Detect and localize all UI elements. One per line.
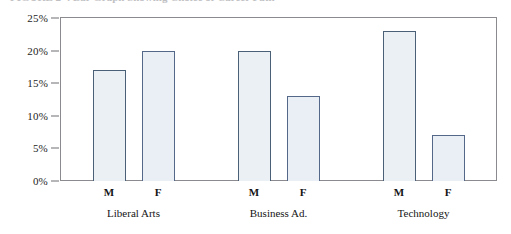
- figure-container: FIGURE 2-4 Bar Graph Showing Choice of C…: [0, 0, 511, 234]
- y-axis-tick-label: 25%: [27, 12, 48, 24]
- y-axis-tick-label: 5%: [33, 142, 48, 154]
- x-axis-gender-label: M: [394, 186, 404, 198]
- y-axis-tick-mark: [51, 181, 59, 182]
- figure-caption-text: FIGURE 2-4 Bar Graph Showing Choice of C…: [10, 0, 275, 3]
- y-axis-tick-mark: [51, 115, 59, 116]
- x-axis-group-label: Business Ad.: [250, 207, 307, 219]
- bars-layer: [61, 18, 496, 181]
- y-axis-tick-mark: [51, 50, 59, 51]
- x-axis-gender-label: M: [249, 186, 259, 198]
- bar: [93, 70, 126, 181]
- y-axis-tick-mark: [51, 83, 59, 84]
- x-axis-group-label: Liberal Arts: [107, 207, 160, 219]
- y-axis-tick-label: 10%: [27, 110, 48, 122]
- bar: [432, 135, 465, 181]
- y-axis-tick-label: 15%: [27, 77, 48, 89]
- x-axis-gender-label: M: [104, 186, 114, 198]
- x-axis-gender-label: F: [300, 186, 307, 198]
- bar: [238, 51, 271, 181]
- x-axis: MFMFMFLiberal ArtsBusiness Ad.Technology: [61, 182, 496, 232]
- x-axis-group-label: Technology: [398, 207, 450, 219]
- bar: [383, 31, 416, 181]
- bar: [142, 51, 175, 181]
- x-axis-gender-label: F: [445, 186, 452, 198]
- y-axis-tick-mark: [51, 18, 59, 19]
- x-axis-gender-label: F: [155, 186, 162, 198]
- y-axis-tick-label: 0%: [33, 175, 48, 187]
- y-axis-tick-label: 20%: [27, 45, 48, 57]
- y-axis: 0%5%10%15%20%25%: [0, 17, 60, 182]
- y-axis-tick-mark: [51, 148, 59, 149]
- figure-caption-cropped: FIGURE 2-4 Bar Graph Showing Choice of C…: [0, 0, 511, 8]
- bar: [287, 96, 320, 181]
